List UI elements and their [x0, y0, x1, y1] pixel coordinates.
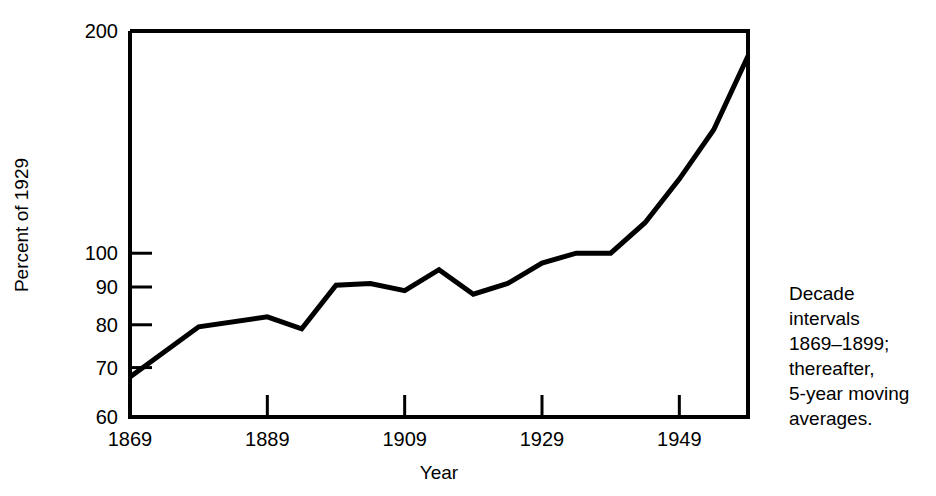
y-tick-label: 90	[96, 277, 118, 297]
chart-annotation: Decade intervals 1869–1899; thereafter, …	[789, 281, 909, 431]
annotation-line-6: averages.	[789, 406, 909, 431]
x-axis-title: Year	[420, 462, 458, 484]
annotation-line-4: thereafter,	[789, 356, 909, 381]
x-tick-label: 1889	[245, 429, 290, 449]
data-series-line	[130, 56, 748, 377]
y-tick-label: 200	[85, 21, 118, 41]
y-tick-label: 100	[85, 243, 118, 263]
y-tick-label: 60	[96, 407, 118, 427]
y-tick-label: 70	[96, 358, 118, 378]
plot-frame	[130, 31, 748, 417]
x-tick-label: 1869	[108, 429, 153, 449]
annotation-line-3: 1869–1899;	[789, 331, 909, 356]
annotation-line-2: intervals	[789, 306, 909, 331]
y-axis-title: Percent of 1929	[11, 158, 33, 292]
x-tick-label: 1929	[520, 429, 565, 449]
annotation-line-1: Decade	[789, 281, 909, 306]
y-tick-label: 80	[96, 315, 118, 335]
x-tick-label: 1909	[382, 429, 427, 449]
chart-figure: 20010090807060 18691889190919291949 Perc…	[0, 0, 936, 496]
annotation-line-5: 5-year moving	[789, 381, 909, 406]
x-axis-tick-marks	[267, 395, 679, 417]
y-axis-tick-marks	[130, 253, 152, 367]
x-tick-label: 1949	[657, 429, 702, 449]
